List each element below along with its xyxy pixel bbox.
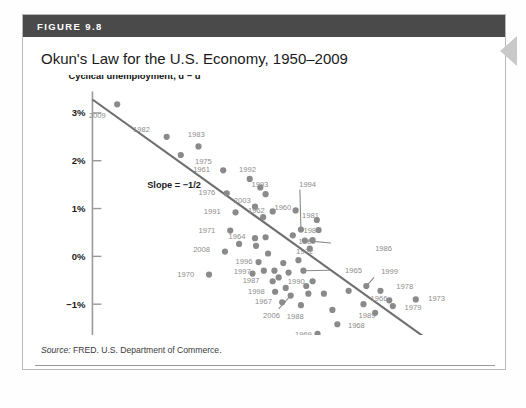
data-point-label: 1973 <box>428 294 445 303</box>
data-point <box>270 278 276 284</box>
data-point <box>290 232 296 238</box>
data-point-label: 1976 <box>198 188 215 197</box>
data-point-label: 1997 <box>234 267 251 276</box>
data-point-label: 1990 <box>288 277 305 286</box>
y-tick-label: 0% <box>72 251 86 262</box>
y-tick-label: −1% <box>66 299 86 310</box>
callout-leader-line <box>300 189 301 229</box>
data-point <box>236 241 242 247</box>
data-point-label: 1964 <box>228 232 245 241</box>
data-point <box>309 278 315 284</box>
y-tick-label: 3% <box>72 107 86 118</box>
data-point <box>164 134 170 140</box>
y-tick-label: 2% <box>72 155 86 166</box>
data-point <box>253 243 259 249</box>
data-point <box>206 271 212 277</box>
data-point-label: 1984 <box>303 226 320 235</box>
data-point <box>276 274 282 280</box>
data-point-label: 1983 <box>188 130 205 139</box>
data-point <box>295 257 301 263</box>
data-point <box>224 190 230 196</box>
data-point-label: 1962 <box>248 206 265 215</box>
data-point-label: 1966 <box>371 294 388 303</box>
data-point <box>260 214 266 220</box>
data-point <box>300 268 306 274</box>
data-point <box>195 143 201 149</box>
data-point <box>262 191 268 197</box>
data-point <box>222 248 228 254</box>
data-point <box>293 207 299 213</box>
data-point-label: 2008 <box>193 245 210 254</box>
data-point <box>329 307 335 313</box>
source-note: Source: FRED. U.S. Department of Commerc… <box>41 345 222 355</box>
y-tick-layer: 3%2%1%0%−1%−2% <box>66 107 101 335</box>
data-point-label: 1991 <box>204 207 221 216</box>
data-point-label: 1999 <box>381 267 398 276</box>
figure-number-label: FIGURE 9.8 <box>37 21 103 32</box>
data-point <box>279 299 285 305</box>
data-point-label: 1996 <box>236 257 253 266</box>
data-point <box>321 291 327 297</box>
data-point <box>288 292 294 298</box>
data-point-label: 1972 <box>296 247 313 256</box>
data-point-label: 1994 <box>299 180 316 189</box>
figure-card: FIGURE 9.8 Okun's Law for the U.S. Econo… <box>22 14 506 370</box>
data-point-label: 1971 <box>198 226 215 235</box>
data-point <box>272 289 278 295</box>
data-point-label: 1968 <box>348 321 365 330</box>
data-point <box>363 283 369 289</box>
figure-title: Okun's Law for the U.S. Economy, 1950–20… <box>23 37 505 67</box>
data-point <box>178 152 184 158</box>
data-point <box>271 268 277 274</box>
data-point <box>390 303 396 309</box>
figure-header-bar: FIGURE 9.8 <box>23 15 505 37</box>
data-point-label: 1986 <box>375 244 392 253</box>
scatter-plot: 3%2%1%0%−1%−2% −6%−4%−2%0%+2%+4% 2009198… <box>23 75 507 335</box>
data-point <box>314 331 320 335</box>
data-point-label: 2003 <box>234 196 251 205</box>
data-point <box>334 321 340 327</box>
data-point-label: 1967 <box>255 297 272 306</box>
data-point-label: 2009 <box>89 111 106 120</box>
data-point <box>252 235 258 241</box>
data-point-label: 1961 <box>193 165 210 174</box>
data-point-label: 1985 <box>298 237 315 246</box>
data-point-label: 1989 <box>359 311 376 320</box>
data-point <box>298 302 304 308</box>
data-point <box>346 288 352 294</box>
data-point-label: 1978 <box>396 282 413 291</box>
data-point <box>305 291 311 297</box>
data-point-label: 1965 <box>345 266 362 275</box>
data-point <box>114 101 120 107</box>
slope-annotation: Slope = −1/2 <box>147 180 201 190</box>
data-point-label: 2006 <box>263 311 280 320</box>
data-point-label: 1992 <box>239 165 256 174</box>
data-point <box>261 268 267 274</box>
data-point <box>220 167 226 173</box>
data-point-label: 1988 <box>287 312 304 321</box>
data-point <box>285 270 291 276</box>
data-point <box>265 250 271 256</box>
data-point-label: 1998 <box>248 287 265 296</box>
data-point <box>360 301 366 307</box>
data-point-label: 1987 <box>243 276 260 285</box>
data-point <box>280 260 286 266</box>
footer-divider <box>35 365 495 366</box>
data-point <box>262 234 268 240</box>
data-point-label: 1960 <box>274 203 291 212</box>
y-tick-label: 1% <box>72 203 86 214</box>
plot-svg: 3%2%1%0%−1%−2% −6%−4%−2%0%+2%+4% 2009198… <box>23 75 507 335</box>
data-point-label: 1979 <box>404 303 421 312</box>
data-point-label: 1982 <box>133 125 150 134</box>
source-prefix: Source: <box>41 345 71 355</box>
data-point <box>255 259 261 265</box>
data-point-label: 1969 <box>295 330 312 335</box>
data-point <box>232 209 238 215</box>
right-chevron-icon <box>500 36 517 66</box>
data-point-label: 1981 <box>302 211 319 220</box>
annotation-layer: Slope = −1/2 <box>147 180 201 190</box>
data-point-label: 1993 <box>251 180 268 189</box>
data-point <box>413 296 419 302</box>
source-text: FRED. U.S. Department of Commerce. <box>71 345 222 355</box>
data-point-label: 1970 <box>177 270 194 279</box>
